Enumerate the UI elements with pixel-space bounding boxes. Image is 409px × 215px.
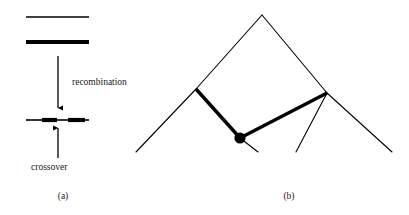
apex-to-left-branch [196, 15, 262, 89]
recombination-label: recombination [72, 77, 127, 87]
panel-b-label: (b) [283, 191, 294, 202]
crossover-node-dot [234, 132, 245, 143]
panel-b-thin-edges [136, 15, 392, 152]
figure-canvas: recombination crossover (a) (b) [0, 0, 409, 215]
right-thick-edge [240, 93, 327, 138]
panel-a-group: recombination crossover (a) [26, 17, 127, 202]
left-branch-tail [136, 89, 196, 152]
apex-to-right-branch [262, 15, 327, 93]
left-thick-edge [196, 89, 240, 138]
panel-b-group: (b) [136, 15, 392, 202]
right-branch-tail [327, 93, 392, 152]
crossover-label: crossover [31, 162, 68, 172]
figure-container: recombination crossover (a) (b) [0, 0, 409, 215]
panel-a-label: (a) [58, 191, 69, 202]
